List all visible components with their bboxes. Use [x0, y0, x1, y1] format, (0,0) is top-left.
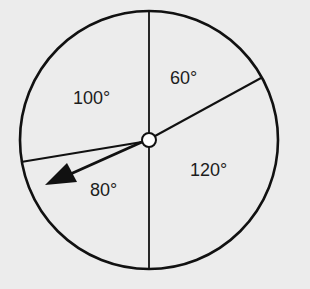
spinner-diagram — [0, 0, 310, 289]
divider-left — [21, 142, 142, 162]
sector-label-60: 60° — [170, 68, 197, 89]
sector-label-120: 120° — [190, 160, 227, 181]
spinner-arrow-icon — [45, 142, 142, 185]
sector-label-100: 100° — [73, 88, 110, 109]
sector-label-80: 80° — [90, 180, 117, 201]
hub-circle — [142, 133, 156, 147]
